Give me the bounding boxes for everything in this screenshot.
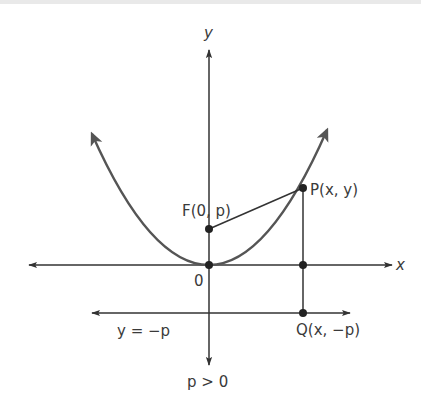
point-q-label: Q(x, −p) xyxy=(296,321,360,339)
y-axis-label: y xyxy=(203,24,214,42)
condition-label: p > 0 xyxy=(187,373,228,391)
parabola-point-p xyxy=(299,184,307,192)
focus-point xyxy=(205,225,213,233)
directrix-point-q xyxy=(299,309,307,317)
x-axis-projection-point xyxy=(299,261,307,269)
point-p-label: P(x, y) xyxy=(310,181,358,199)
origin-label: 0 xyxy=(194,272,204,290)
directrix-label: y = −p xyxy=(117,322,170,340)
parabola-curve xyxy=(92,134,209,265)
origin-point xyxy=(205,261,213,269)
x-axis-label: x xyxy=(395,256,405,274)
focus-label: F(0, p) xyxy=(182,202,231,220)
parabola-diagram: y x 0 F(0, p) P(x, y) Q(x, −p) y = −p p … xyxy=(0,0,421,418)
